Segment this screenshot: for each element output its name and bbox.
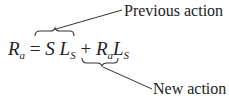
plus-sign: +: [80, 38, 91, 59]
term2-l: L: [113, 38, 124, 59]
term1-l: L: [60, 38, 71, 59]
previous-action-leader: [56, 10, 122, 29]
equals-sign: =: [30, 38, 41, 59]
term2-r: R: [96, 38, 108, 59]
equation: Ra = S LS + RaLS: [8, 38, 129, 61]
new-action-label: New action: [153, 80, 226, 98]
term2-l-sub: S: [124, 49, 130, 61]
previous-action-label: Previous action: [124, 2, 223, 20]
new-action-leader: [103, 67, 152, 89]
lhs-sub: a: [20, 49, 26, 61]
term1-l-sub: S: [70, 49, 76, 61]
term1-s: S: [45, 38, 55, 59]
lhs-symbol: R: [8, 38, 20, 59]
top-brace: [35, 28, 74, 36]
